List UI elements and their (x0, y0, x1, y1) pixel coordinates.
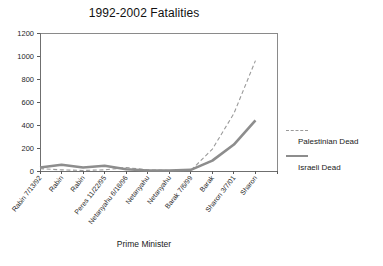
x-axis-title: Prime Minister (0, 239, 383, 249)
y-tick-label-1200: 1200 (17, 29, 34, 38)
data-series-group (40, 61, 255, 171)
legend-label-palestinian-dead: Palestinian Dead (298, 137, 358, 146)
x-tick-label-2: Rabin (69, 174, 86, 193)
y-axis-ticks: 020040060080010001200 (17, 29, 40, 176)
chart-legend: Palestinian Dead Israeli Dead (286, 126, 381, 178)
legend-item-palestinian-dead: Palestinian Dead (286, 126, 381, 152)
legend-item-israeli-dead: Israeli Dead (286, 152, 381, 178)
series-line-israeli-dead (40, 120, 255, 170)
x-tick-label-4: Netanyahu 6/18/96 (87, 174, 130, 226)
x-axis-ticks: Rabin 7/13/92RabinRabinPeres 11/22/95Net… (10, 171, 277, 226)
y-tick-label-600: 600 (21, 98, 34, 107)
legend-swatch-solid-icon (286, 155, 308, 157)
x-tick-label-0: Rabin 7/13/92 (10, 174, 42, 213)
y-tick-label-800: 800 (21, 75, 34, 84)
legend-swatch-dashed-icon (286, 130, 308, 131)
y-tick-label-200: 200 (21, 144, 34, 153)
x-tick-label-1: Rabin (48, 174, 65, 193)
x-tick-label-10: Sharon (239, 174, 258, 196)
y-tick-label-0: 0 (30, 167, 34, 176)
y-tick-label-400: 400 (21, 121, 34, 130)
legend-label-israeli-dead: Israeli Dead (298, 163, 341, 172)
y-tick-label-1000: 1000 (17, 52, 34, 61)
axis-frame (40, 33, 277, 171)
chart-container: 1992-2002 Fatalities 0200400600800100012… (0, 0, 383, 266)
x-tick-label-8: Barak (198, 174, 215, 193)
